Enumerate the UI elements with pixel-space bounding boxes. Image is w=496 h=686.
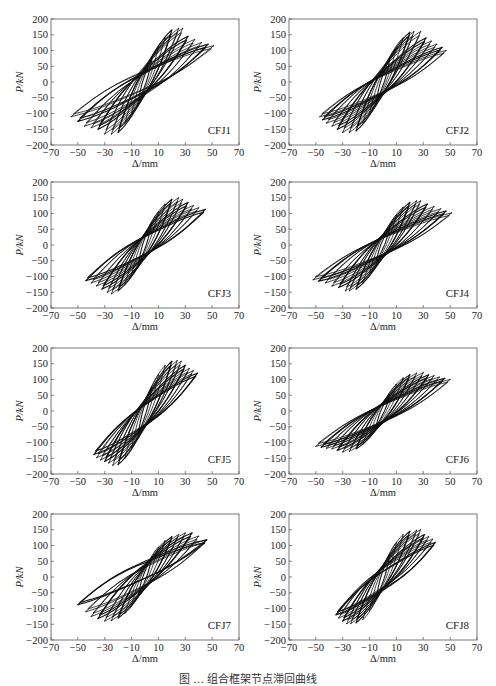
y-tick-label: −150 — [264, 287, 286, 298]
envelope-point-positive — [425, 37, 426, 38]
y-tick-label: −50 — [32, 255, 48, 266]
hysteresis-loop-cycle-5 — [112, 538, 177, 617]
envelope-point-negative — [112, 465, 113, 466]
envelope-point-positive — [423, 372, 424, 373]
envelope-point-negative — [124, 284, 125, 285]
envelope-point-negative — [313, 279, 314, 280]
subplot-cfj6: −200−150−100−50050100150200−70−50−30−101… — [252, 343, 482, 499]
envelope-point-negative — [131, 113, 132, 114]
envelope-point-negative — [319, 116, 320, 117]
envelope-point-positive — [198, 207, 199, 208]
envelope-point-positive — [446, 210, 447, 211]
x-tick-label: 10 — [391, 147, 402, 158]
envelope-point-negative — [362, 443, 363, 444]
envelope-point-positive — [182, 199, 183, 200]
x-tick-label: 30 — [418, 642, 429, 653]
x-tick-label: −70 — [43, 147, 59, 158]
envelope-point-negative — [138, 100, 139, 101]
envelope-point-negative — [362, 282, 363, 283]
envelope-point-positive — [451, 212, 452, 213]
specimen-label: CFJ5 — [208, 453, 232, 465]
envelope-point-negative — [345, 290, 346, 291]
envelope-point-positive — [450, 379, 451, 380]
envelope-point-negative — [124, 613, 125, 614]
y-tick-label: −50 — [32, 92, 48, 103]
hysteresis-loop-cycle-10 — [80, 47, 206, 118]
envelope-point-negative — [100, 459, 101, 460]
y-tick-label: −150 — [26, 124, 48, 135]
y-tick-label: −50 — [270, 255, 286, 266]
y-axis-label: P/kN — [14, 400, 25, 423]
envelope-point-negative — [321, 447, 322, 448]
x-tick-label: 10 — [391, 642, 402, 653]
hysteresis-loops — [313, 200, 453, 291]
envelope-point-negative — [107, 292, 108, 293]
y-tick-label: −50 — [32, 587, 48, 598]
envelope-point-positive — [178, 534, 179, 535]
x-tick-label: −30 — [97, 147, 113, 158]
envelope-point-positive — [416, 200, 417, 201]
envelope-point-negative — [85, 611, 86, 612]
envelope-point-positive — [389, 59, 390, 60]
subplot-cfj4: −200−150−100−50050100150200−70−50−30−101… — [252, 177, 482, 333]
x-tick-label: 50 — [445, 147, 456, 158]
envelope-point-positive — [436, 44, 437, 45]
envelope-point-positive — [201, 42, 202, 43]
envelope-point-negative — [338, 287, 339, 288]
envelope-point-positive — [409, 202, 410, 203]
hysteresis-loops — [71, 28, 215, 135]
envelope-point-negative — [369, 609, 370, 610]
envelope-point-positive — [171, 536, 172, 537]
envelope-point-negative — [111, 620, 112, 621]
x-tick-label: −70 — [281, 476, 297, 487]
specimen-label: CFJ6 — [446, 453, 470, 465]
envelope-point-positive — [151, 387, 152, 388]
x-tick-label: 30 — [418, 147, 429, 158]
x-tick-label: −10 — [123, 310, 139, 321]
y-tick-label: 200 — [32, 177, 48, 188]
envelope-point-positive — [389, 395, 390, 396]
envelope-point-positive — [187, 202, 188, 203]
envelope-point-positive — [151, 222, 152, 223]
y-tick-label: −150 — [26, 619, 48, 630]
envelope-point-negative — [331, 285, 332, 286]
envelope-point-positive — [165, 540, 166, 541]
envelope-point-negative — [138, 594, 139, 595]
y-tick-label: 0 — [281, 406, 286, 417]
envelope-point-positive — [182, 28, 183, 29]
x-axis-label: Δ/mm — [132, 321, 158, 332]
envelope-point-negative — [111, 133, 112, 134]
envelope-point-positive — [435, 542, 436, 543]
envelope-point-negative — [138, 263, 139, 264]
x-tick-label: 50 — [207, 642, 218, 653]
envelope-point-negative — [85, 280, 86, 281]
x-tick-label: 10 — [391, 476, 402, 487]
hysteresis-loop-cycle-10 — [323, 381, 443, 444]
x-axis-label: Δ/mm — [132, 158, 158, 169]
envelope-point-negative — [138, 432, 139, 433]
envelope-point-positive — [396, 384, 397, 385]
x-tick-label: 70 — [472, 476, 483, 487]
y-tick-label: 50 — [276, 556, 287, 567]
y-axis-label: P/kN — [252, 234, 263, 257]
envelope-point-negative — [71, 116, 72, 117]
envelope-point-negative — [325, 282, 326, 283]
y-tick-label: 0 — [281, 77, 286, 88]
y-tick-label: −150 — [26, 287, 48, 298]
envelope-point-negative — [118, 617, 119, 618]
y-tick-label: −100 — [264, 603, 286, 614]
envelope-point-negative — [356, 289, 357, 290]
envelope-point-positive — [424, 534, 425, 535]
x-tick-label: 50 — [207, 310, 218, 321]
envelope-point-positive — [389, 554, 390, 555]
x-tick-label: −70 — [281, 642, 297, 653]
subplot-cfj8: −200−150−100−50050100150200−70−50−30−101… — [252, 509, 482, 665]
hysteresis-loops — [77, 532, 207, 621]
envelope-point-positive — [177, 360, 178, 361]
hysteresis-loop-cycle-11 — [322, 53, 444, 114]
envelope-point-positive — [178, 28, 179, 29]
y-tick-label: 50 — [38, 224, 49, 235]
envelope-point-negative — [104, 133, 105, 134]
envelope-point-negative — [376, 100, 377, 101]
x-tick-label: −70 — [43, 642, 59, 653]
